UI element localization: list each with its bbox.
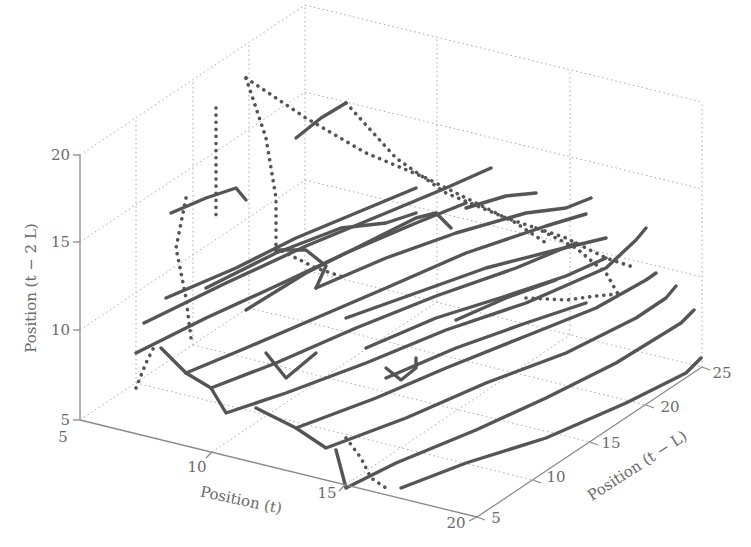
y-tick-10: 10 [546,468,565,486]
z-tick-5: 5 [60,411,70,429]
x-tick-15: 15 [317,484,336,502]
x-axis-title: Position (t) [199,483,284,518]
trajectory-series [136,78,701,488]
y-tick-20: 20 [660,398,679,416]
x-tick-5: 5 [58,428,68,446]
z-tick-labels: 5 10 15 20 [51,146,70,429]
x-tick-labels: 5 10 15 20 [58,428,465,532]
y-axis-title: Position (t − L) [584,427,690,505]
y-tick-15: 15 [601,434,620,452]
grid [80,5,702,485]
3d-phase-plot: 5 10 15 20 5 10 15 20 5 10 15 20 25 Posi… [0,0,751,547]
z-tick-10: 10 [51,321,70,339]
z-tick-20: 20 [51,146,70,164]
y-tick-25: 25 [712,364,731,382]
z-axis-title: Position (t − 2 L) [22,223,40,352]
z-tick-15: 15 [51,233,70,251]
x-tick-20: 20 [446,514,465,532]
y-tick-5: 5 [491,509,501,527]
x-tick-10: 10 [187,458,206,476]
